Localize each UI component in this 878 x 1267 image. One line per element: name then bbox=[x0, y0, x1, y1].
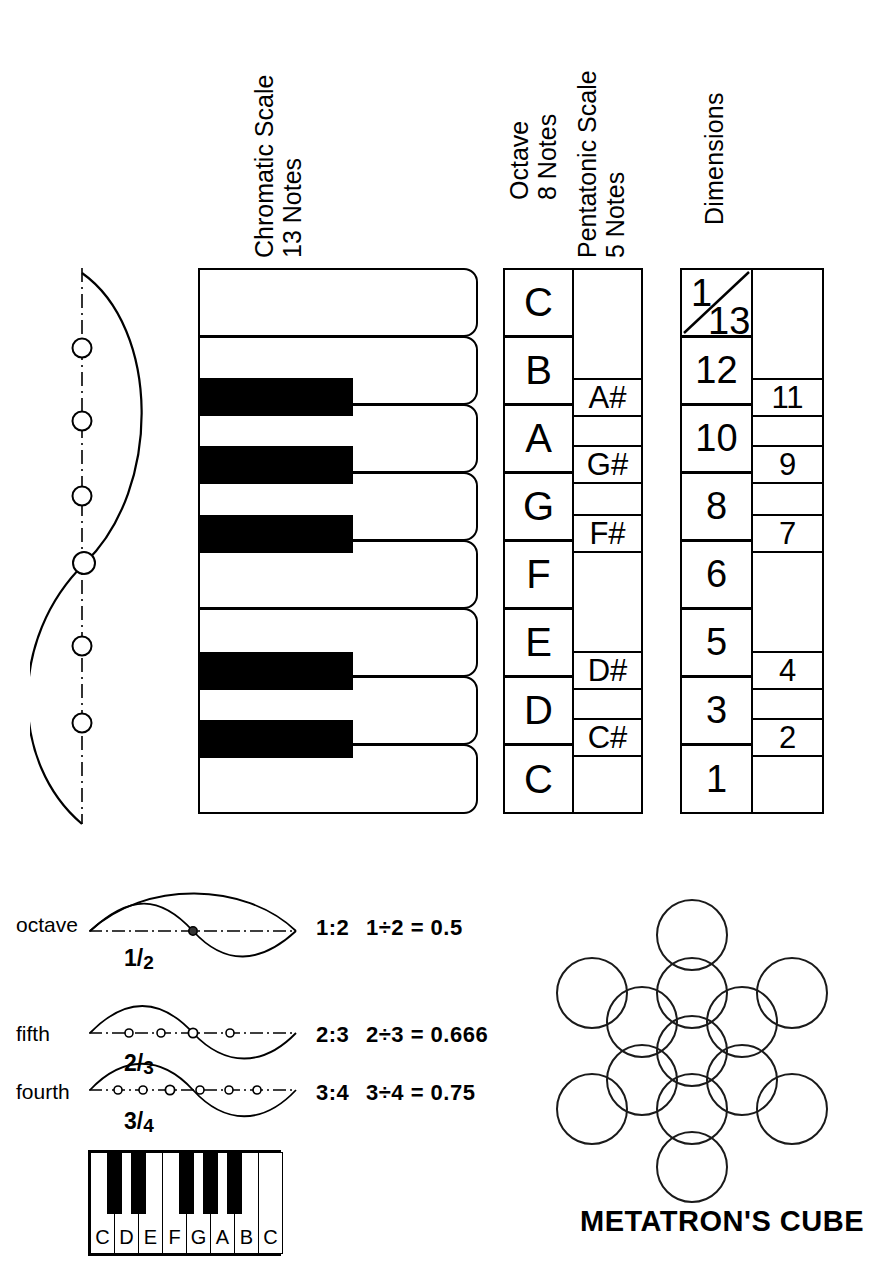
header-octave: Octave 8 Notes bbox=[505, 114, 561, 200]
header-pentatonic-line2: 5 Notes bbox=[601, 70, 629, 258]
header-pentatonic-line1: Pentatonic Scale bbox=[573, 70, 601, 258]
pentatonic-blank-4 bbox=[572, 688, 643, 720]
ratio-value-octave: 1:2 bbox=[316, 915, 349, 941]
pentatonic-cell-c-sharp: C# bbox=[572, 718, 643, 757]
octave-cell-1: B bbox=[503, 336, 574, 405]
small-key-label-f: F bbox=[168, 1226, 180, 1253]
pentatonic-cell-a-sharp: A# bbox=[572, 378, 643, 417]
metatron-circle-outer-bottom bbox=[656, 1131, 728, 1203]
dimensions-cell-9: 9 bbox=[751, 445, 824, 484]
dimensions-cell-12: 12 bbox=[680, 336, 753, 405]
small-key-label-b: B bbox=[240, 1226, 253, 1253]
chromatic-keyboard[interactable] bbox=[198, 268, 478, 816]
dimensions-cell-5: 5 bbox=[680, 608, 753, 677]
header-octave-line2: 8 Notes bbox=[533, 114, 561, 200]
dimensions-right-blank-4 bbox=[751, 688, 824, 720]
small-key-label-c1: C bbox=[95, 1226, 109, 1253]
black-key-g-sharp[interactable] bbox=[200, 446, 353, 484]
metatron-circle-outer-lower-right bbox=[756, 1073, 828, 1145]
dimensions-cell-10: 10 bbox=[680, 404, 753, 473]
pentatonic-blank-top bbox=[572, 268, 643, 380]
octave-pentatonic-table: C B A G F E D C A# G# F# D# C# bbox=[503, 268, 644, 816]
black-key-d-sharp[interactable] bbox=[200, 652, 353, 690]
metatron-circle-outer-top bbox=[656, 899, 728, 971]
dimensions-cell-1: 1 bbox=[680, 744, 753, 814]
dimensions-cell-1-13: 1 13 bbox=[680, 268, 753, 337]
ratio-equation-fifth: 2÷3 = 0.666 bbox=[366, 1022, 488, 1048]
octave-cell-4: F bbox=[503, 540, 574, 609]
dimensions-right-blank-3 bbox=[751, 551, 824, 653]
ratio-equation-fourth: 3÷4 = 0.75 bbox=[366, 1080, 475, 1106]
octave-cell-3: G bbox=[503, 472, 574, 541]
dimensions-cell-6: 6 bbox=[680, 540, 753, 609]
octave-cell-5: E bbox=[503, 608, 574, 677]
dimensions-cell-4: 4 bbox=[751, 651, 824, 690]
fraction-fourth-denominator: 4 bbox=[143, 1115, 154, 1136]
ratio-value-fourth: 3:4 bbox=[316, 1080, 349, 1106]
small-white-key-c2[interactable]: C bbox=[258, 1152, 283, 1254]
header-dimensions: Dimensions bbox=[700, 92, 729, 225]
ratio-label-fifth: fifth bbox=[16, 1022, 50, 1046]
ratio-value-fifth: 2:3 bbox=[316, 1022, 349, 1048]
octave-cell-0: C bbox=[503, 268, 574, 337]
header-octave-line1: Octave bbox=[505, 114, 533, 200]
small-key-label-c2: C bbox=[263, 1226, 277, 1253]
header-pentatonic: Pentatonic Scale 5 Notes bbox=[573, 70, 629, 258]
dimensions-right-blank-top bbox=[751, 268, 824, 380]
ratio-label-fourth: fourth bbox=[16, 1080, 70, 1104]
black-key-f-sharp[interactable] bbox=[200, 515, 353, 553]
pentatonic-blank-3 bbox=[572, 551, 643, 653]
dimensions-right-blank-1 bbox=[751, 415, 824, 447]
black-key-a-sharp[interactable] bbox=[200, 378, 353, 416]
small-black-key-d-sharp[interactable] bbox=[131, 1152, 146, 1214]
dimensions-table: 1 13 12 10 8 6 5 3 1 11 9 7 4 2 bbox=[680, 268, 825, 816]
dimensions-right-blank-bottom bbox=[751, 755, 824, 814]
small-black-key-c-sharp[interactable] bbox=[107, 1152, 122, 1214]
small-key-label-a: A bbox=[216, 1226, 229, 1253]
octave-wave-diagram bbox=[85, 890, 300, 960]
small-black-key-a-sharp[interactable] bbox=[227, 1152, 242, 1214]
small-keyboard[interactable]: C D E F G A B C bbox=[88, 1150, 281, 1256]
dimensions-cell-8: 8 bbox=[680, 472, 753, 541]
metatron-circle-outer-upper-left bbox=[556, 957, 628, 1029]
header-chromatic-scale: Chromatic Scale 13 Notes bbox=[250, 75, 306, 258]
dimensions-cell-3: 3 bbox=[680, 676, 753, 745]
dimensions-cell-11: 11 bbox=[751, 378, 824, 417]
metatrons-cube-diagram bbox=[560, 905, 830, 1195]
black-key-c-sharp[interactable] bbox=[200, 720, 353, 758]
pentatonic-blank-2 bbox=[572, 482, 643, 516]
octave-cell-2: A bbox=[503, 404, 574, 473]
white-key-1[interactable] bbox=[198, 268, 478, 337]
dimensions-cell-2: 2 bbox=[751, 718, 824, 757]
fraction-fourth: 3/4 bbox=[124, 1108, 154, 1137]
small-black-key-f-sharp[interactable] bbox=[179, 1152, 194, 1214]
metatrons-cube-title: METATRON'S CUBE bbox=[580, 1205, 864, 1238]
small-key-label-g: G bbox=[191, 1226, 207, 1253]
octave-cell-7: C bbox=[503, 744, 574, 814]
pentatonic-blank-1 bbox=[572, 415, 643, 447]
small-key-label-d: D bbox=[119, 1226, 133, 1253]
small-key-label-e: E bbox=[144, 1226, 157, 1253]
dimensions-right-blank-2 bbox=[751, 482, 824, 516]
pentatonic-cell-f-sharp: F# bbox=[572, 514, 643, 553]
ratio-label-octave: octave bbox=[16, 913, 78, 937]
octave-cell-6: D bbox=[503, 676, 574, 745]
header-chromatic-line1: Chromatic Scale bbox=[250, 75, 278, 258]
metatron-circle-outer-lower-left bbox=[556, 1073, 628, 1145]
fourth-wave-diagram bbox=[85, 1055, 300, 1130]
pentatonic-cell-g-sharp: G# bbox=[572, 445, 643, 484]
fraction-octave-numerator: 1 bbox=[124, 945, 137, 971]
metatron-circle-outer-upper-right bbox=[756, 957, 828, 1029]
dimensions-cell-7: 7 bbox=[751, 514, 824, 553]
fraction-octave-denominator: 2 bbox=[143, 952, 154, 973]
header-chromatic-line2: 13 Notes bbox=[278, 75, 306, 258]
vertical-waveform-diagram bbox=[30, 258, 200, 828]
pentatonic-cell-d-sharp: D# bbox=[572, 651, 643, 690]
fraction-fourth-numerator: 3 bbox=[124, 1108, 137, 1134]
fraction-octave: 1/2 bbox=[124, 945, 154, 974]
ratio-equation-octave: 1÷2 = 0.5 bbox=[366, 915, 463, 941]
pentatonic-blank-bottom bbox=[572, 755, 643, 814]
small-black-key-g-sharp[interactable] bbox=[203, 1152, 218, 1214]
